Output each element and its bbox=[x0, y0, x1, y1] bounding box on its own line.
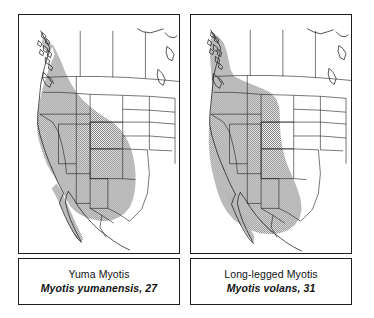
common-name-label: Yuma Myotis bbox=[68, 268, 129, 282]
common-name-label: Long-legged Myotis bbox=[224, 268, 317, 282]
caption-box-yuma-myotis: Yuma Myotis Myotis yumanensis, 27 bbox=[18, 258, 180, 305]
range-map-panel-yuma-myotis: Yuma Myotis Myotis yumanensis, 27 bbox=[18, 14, 180, 305]
species-range-figure: Yuma Myotis Myotis yumanensis, 27 bbox=[0, 0, 374, 318]
map-frame-yuma-myotis bbox=[18, 14, 180, 254]
scientific-name-label: Myotis volans, 31 bbox=[227, 282, 316, 296]
map-graphic-yuma-myotis bbox=[19, 15, 179, 253]
map-frame-long-legged-myotis bbox=[190, 14, 352, 254]
map-graphic-long-legged-myotis bbox=[191, 15, 351, 253]
range-map-panel-long-legged-myotis: Long-legged Myotis Myotis volans, 31 bbox=[190, 14, 352, 305]
caption-box-long-legged-myotis: Long-legged Myotis Myotis volans, 31 bbox=[190, 258, 352, 305]
scientific-name-label: Myotis yumanensis, 27 bbox=[41, 282, 157, 296]
